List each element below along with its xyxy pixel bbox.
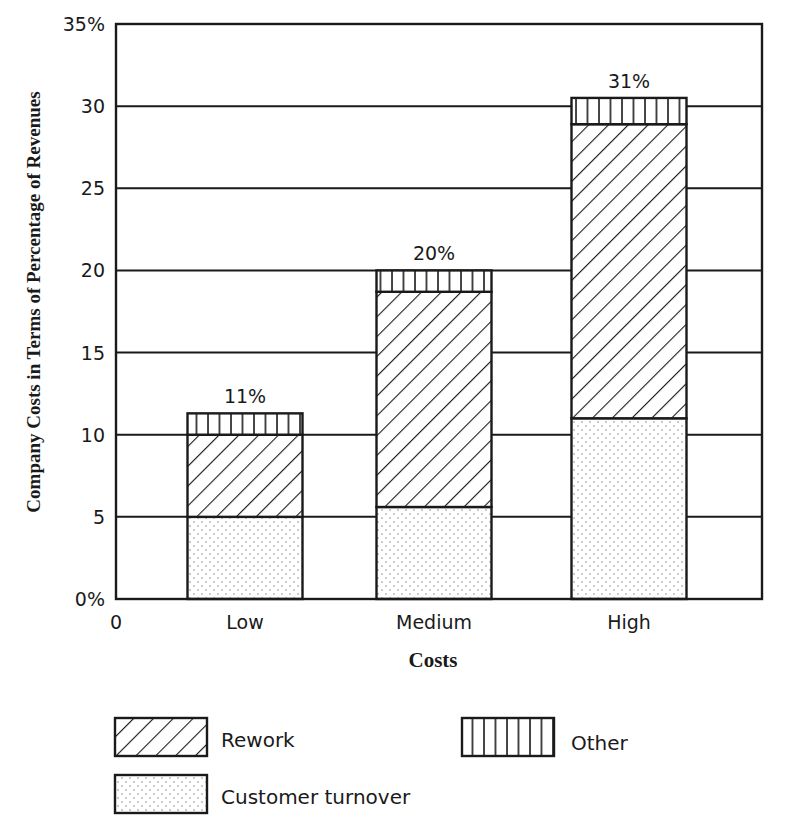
x-tick-label: Low [226,611,263,633]
bar-segment-rework [188,435,303,517]
bar-segment-customer-turnover [377,507,492,599]
y-tick-label: 15 [81,342,105,364]
x-axis-title: Costs [408,648,457,672]
y-tick-label: 20 [81,259,105,281]
legend-label-customer-turnover: Customer turnover [221,785,411,809]
total-label: 20% [413,242,455,264]
y-axis-ticks: 0%5101520253035% [63,13,105,610]
bar-segment-other [572,98,687,124]
legend-label-other: Other [571,731,629,755]
legend: ReworkOtherCustomer turnover [115,718,629,813]
bar-segment-other [188,413,303,434]
legend-swatch-customer-turnover [115,775,207,813]
total-label: 11% [224,385,266,407]
legend-label-rework: Rework [221,728,295,752]
y-tick-label: 10 [81,424,105,446]
y-tick-label: 35% [63,13,105,35]
x-tick-label: Medium [396,611,472,633]
y-tick-label: 25 [81,177,105,199]
y-tick-label: 5 [93,506,105,528]
x-tick-label: High [607,611,651,633]
y-axis-title: Company Costs in Terms of Percentage of … [23,91,44,512]
y-tick-label: 30 [81,95,105,117]
x-origin-label: 0 [110,611,122,633]
bar-segment-rework [377,292,492,507]
bar-segment-rework [572,124,687,418]
total-label: 31% [608,70,650,92]
x-axis-ticks: LowMediumHigh0 [110,611,651,633]
legend-swatch-other [462,718,554,756]
bars [188,98,687,599]
stacked-bar-chart: 0%5101520253035% LowMediumHigh0 11%20%31… [0,0,786,836]
bar-segment-other [377,270,492,291]
legend-swatch-rework [115,718,207,756]
bar-segment-customer-turnover [188,517,303,599]
bar-segment-customer-turnover [572,418,687,599]
y-tick-label: 0% [75,588,105,610]
